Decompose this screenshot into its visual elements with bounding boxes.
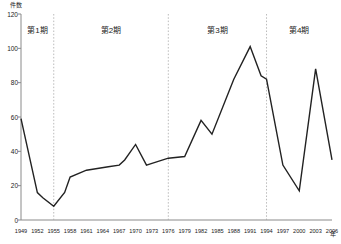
- line-chart: 件数 年 020406080100120 1949195219551958196…: [0, 0, 341, 244]
- y-tick-label: 0: [0, 217, 18, 224]
- y-tick-label: 40: [0, 148, 18, 155]
- x-tick-label: 1976: [162, 228, 174, 235]
- x-tick-label: 1964: [97, 228, 109, 235]
- x-tick-label: 1988: [228, 228, 240, 235]
- period-label: 第1期: [27, 26, 47, 36]
- data-series-line: [21, 47, 332, 207]
- period-divider-lines: [54, 14, 267, 220]
- x-tick-label: 1973: [146, 228, 158, 235]
- y-tick-label: 20: [0, 182, 18, 189]
- axis-lines: [21, 14, 332, 220]
- x-tick-label: 1994: [260, 228, 272, 235]
- period-label: 第3期: [207, 26, 227, 36]
- x-tick-label: 1961: [80, 228, 92, 235]
- y-tick-label: 100: [0, 45, 18, 52]
- x-tick-label: 1979: [178, 228, 190, 235]
- x-tick-label: 1967: [113, 228, 125, 235]
- period-label: 第2期: [101, 26, 121, 36]
- x-tick-label: 1985: [211, 228, 223, 235]
- y-tick-label: 120: [0, 11, 18, 18]
- x-tick-label: 2000: [293, 228, 305, 235]
- x-tick-label: 1997: [277, 228, 289, 235]
- period-label: 第4期: [289, 26, 309, 36]
- x-tick-label: 2003: [309, 228, 321, 235]
- x-tick-label: 1982: [195, 228, 207, 235]
- x-tick-label: 2006: [326, 228, 338, 235]
- x-tick-label: 1952: [31, 228, 43, 235]
- x-tick-label: 1970: [129, 228, 141, 235]
- y-tick-label: 80: [0, 79, 18, 86]
- x-tick-label: 1958: [64, 228, 76, 235]
- plot-area: [0, 0, 341, 244]
- y-tick-label: 60: [0, 114, 18, 121]
- x-tick-label: 1955: [48, 228, 60, 235]
- x-tick-label: 1991: [244, 228, 256, 235]
- x-tick-label: 1949: [15, 228, 27, 235]
